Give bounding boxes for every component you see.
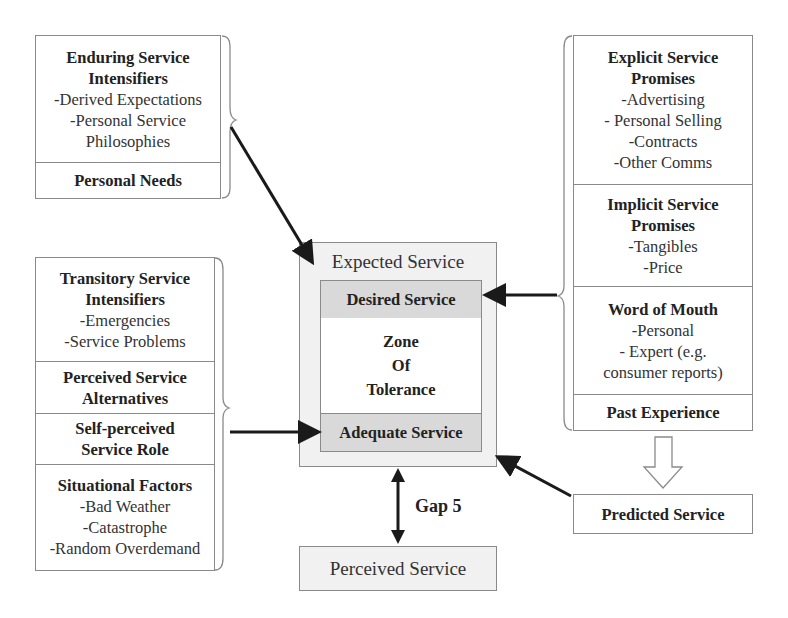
connectors-overlay — [0, 0, 788, 618]
arrow-enduring-to-expected — [231, 127, 311, 260]
brace-left-top — [222, 36, 236, 198]
brace-left-bottom — [215, 258, 229, 570]
hollow-down-arrow — [644, 437, 682, 488]
arrow-predicted-to-adequate — [500, 458, 571, 496]
brace-right — [558, 36, 572, 430]
